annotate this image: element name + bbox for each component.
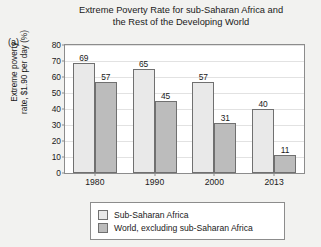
bar[interactable]: 31 xyxy=(214,123,236,173)
figure: Extreme Poverty Rate for sub-Saharan Afr… xyxy=(0,0,321,247)
y-axis-tick-label: 20 xyxy=(52,136,61,146)
bar-value-label: 11 xyxy=(281,145,290,155)
chart-title-line-1: Extreme Poverty Rate for sub-Saharan Afr… xyxy=(50,5,312,17)
bar-value-label: 31 xyxy=(221,113,230,123)
x-axis-tick-mark xyxy=(214,173,215,176)
bar-group: 4011 xyxy=(244,45,304,173)
y-axis-tick-label: 70 xyxy=(52,56,61,66)
legend-label: World, excluding sub-Saharan Africa xyxy=(114,223,253,233)
bar-group: 5731 xyxy=(185,45,245,173)
bar[interactable]: 45 xyxy=(155,101,177,173)
chart-title: Extreme Poverty Rate for sub-Saharan Afr… xyxy=(50,5,312,28)
x-axis-tick-label: 2000 xyxy=(205,177,224,187)
bar[interactable]: 11 xyxy=(274,155,296,173)
bar-value-label: 57 xyxy=(199,72,208,82)
y-axis-tick-label: 80 xyxy=(52,40,61,50)
bar[interactable]: 69 xyxy=(73,63,95,173)
y-axis-tick-label: 60 xyxy=(52,72,61,82)
bar-value-label: 57 xyxy=(101,72,110,82)
y-axis-tick-label: 40 xyxy=(52,104,61,114)
plot-area: 0102030405060708069571980654519905731200… xyxy=(64,44,305,174)
bar[interactable]: 57 xyxy=(95,82,117,173)
y-axis-title-line-2: rate, $1.90 per day (%) xyxy=(20,7,30,137)
legend-item[interactable]: Sub-Saharan Africa xyxy=(98,208,277,221)
bar[interactable]: 40 xyxy=(252,109,274,173)
x-axis-tick-mark xyxy=(94,173,95,176)
bar-group: 6545 xyxy=(125,45,185,173)
legend-swatch xyxy=(98,210,108,220)
bar-value-label: 40 xyxy=(258,99,267,109)
legend-label: Sub-Saharan Africa xyxy=(114,210,189,220)
bar-value-label: 45 xyxy=(161,91,170,101)
x-axis-tick-mark xyxy=(154,173,155,176)
y-axis-tick-label: 0 xyxy=(56,168,61,178)
y-axis-tick-label: 30 xyxy=(52,120,61,130)
y-axis-tick-label: 10 xyxy=(52,152,61,162)
x-axis-tick-mark xyxy=(274,173,275,176)
bar-group: 6957 xyxy=(65,45,125,173)
y-axis-title-line-1: Extreme poverty xyxy=(10,7,20,137)
x-axis-tick-label: 2013 xyxy=(265,177,284,187)
bar-value-label: 69 xyxy=(79,53,88,63)
bar-value-label: 65 xyxy=(139,59,148,69)
bar[interactable]: 57 xyxy=(192,82,214,173)
y-axis-tick-label: 50 xyxy=(52,88,61,98)
legend-swatch xyxy=(98,223,108,233)
bar[interactable]: 65 xyxy=(133,69,155,173)
chart-legend: Sub-Saharan AfricaWorld, excluding sub-S… xyxy=(90,202,285,240)
x-axis-tick-label: 1980 xyxy=(85,177,104,187)
legend-item[interactable]: World, excluding sub-Saharan Africa xyxy=(98,221,277,234)
x-axis-tick-label: 1990 xyxy=(145,177,164,187)
y-axis-title: Extreme poverty rate, $1.90 per day (%) xyxy=(10,7,34,137)
chart-title-line-2: the Rest of the Developing World xyxy=(50,17,312,29)
